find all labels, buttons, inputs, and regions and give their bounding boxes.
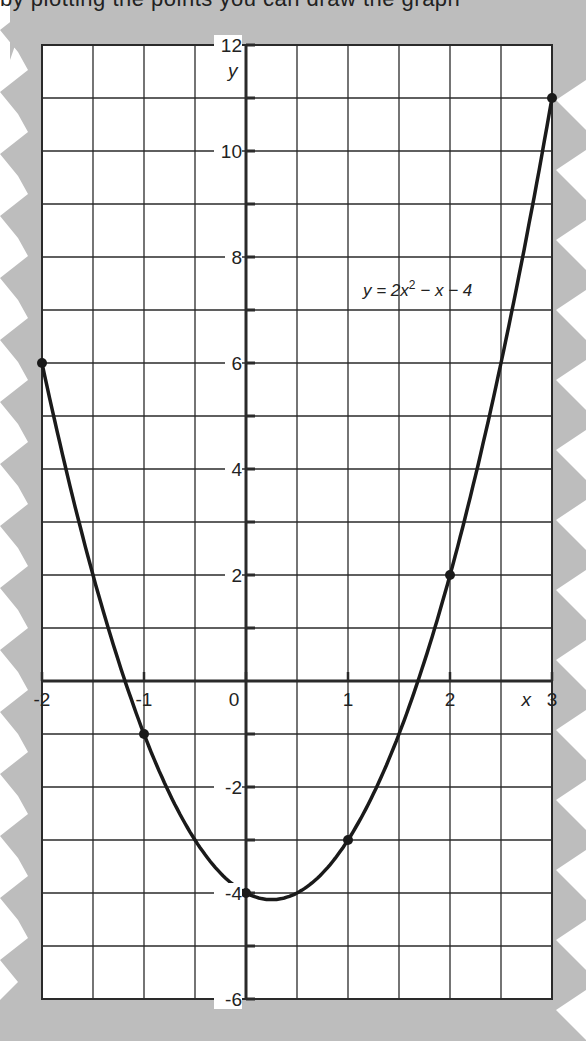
x-tick-label: 1 [343,689,354,710]
x-tick-label: -2 [34,689,51,710]
x-axis-title: x [520,689,532,710]
x-tick-label: 2 [445,689,456,710]
y-tick-label: 12 [221,35,242,56]
data-point-marker [37,358,47,368]
data-point-marker [445,570,455,580]
y-tick-label: -4 [225,883,242,904]
data-point-marker [547,93,557,103]
y-tick-label: 2 [231,565,242,586]
y-axis-title: y [226,60,239,81]
y-tick-label: 6 [231,353,242,374]
x-tick-label: -1 [136,689,153,710]
equation-label: y = 2x2 − x − 4 [362,278,472,300]
data-point-marker [241,888,251,898]
data-point-marker [139,729,149,739]
y-tick-label: 8 [231,247,242,268]
chart-figure: by plotting the points you can draw the … [0,0,586,1041]
y-tick-label: 10 [221,141,242,162]
cut-off-caption: by plotting the points you can draw the … [0,0,586,12]
y-tick-label: -2 [225,777,242,798]
y-tick-label: -6 [225,989,242,1010]
x-tick-label: 0 [229,689,240,710]
data-point-marker [343,835,353,845]
parabola-chart: 12108642-2-4-6-2-10123yx y = 2x2 − x − 4 [0,0,586,1041]
x-tick-label: 3 [547,689,558,710]
y-tick-label: 4 [231,459,242,480]
